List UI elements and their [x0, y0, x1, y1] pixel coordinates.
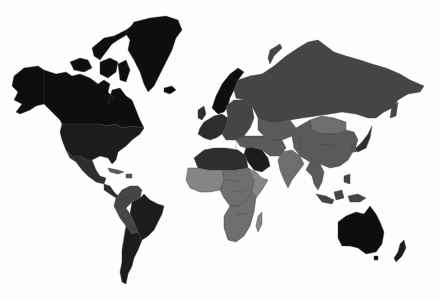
world-map-svg	[0, 0, 440, 298]
region-north-africa[interactable]	[194, 148, 248, 170]
world-map	[0, 0, 440, 298]
region-australia[interactable]	[338, 206, 384, 260]
region-madagascar[interactable]	[256, 212, 262, 232]
region-indonesia[interactable]	[316, 174, 366, 204]
region-canada[interactable]	[44, 70, 144, 128]
region-argentina-chile[interactable]	[120, 226, 142, 284]
region-new-zealand[interactable]	[394, 240, 406, 262]
region-greenland[interactable]	[126, 16, 182, 92]
region-west-africa[interactable]	[186, 168, 224, 192]
region-caribbean[interactable]	[108, 168, 132, 178]
region-iceland[interactable]	[164, 86, 176, 94]
region-canadian-arctic[interactable]	[70, 24, 134, 82]
region-southeast-asia[interactable]	[306, 162, 324, 190]
region-alaska[interactable]	[12, 66, 44, 114]
region-central-america[interactable]	[104, 184, 118, 198]
